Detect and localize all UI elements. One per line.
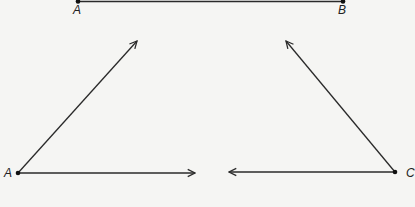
vertex-label-c: C bbox=[406, 166, 415, 180]
segment-label-b: B bbox=[338, 3, 346, 17]
ray-up-left-arrow bbox=[286, 41, 395, 172]
angle-left: A bbox=[3, 41, 195, 180]
ray-up-right-arrow bbox=[18, 41, 137, 173]
angle-right: C bbox=[229, 41, 415, 180]
segment-label-a: A bbox=[72, 3, 81, 17]
segment-ab: A B bbox=[72, 0, 346, 17]
vertex-label-a: A bbox=[3, 166, 12, 180]
vertex-a-dot bbox=[16, 171, 21, 176]
geometry-diagram: A B A C bbox=[0, 0, 415, 207]
vertex-c-dot bbox=[393, 170, 398, 175]
